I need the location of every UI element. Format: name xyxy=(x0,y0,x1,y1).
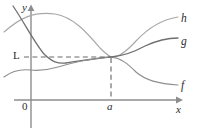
curve-f xyxy=(4,57,178,85)
y-axis-label: y xyxy=(22,2,27,13)
origin-label: 0 xyxy=(22,101,28,112)
y-axis-arrowhead xyxy=(28,5,35,12)
curve-h xyxy=(4,13,178,57)
curve-g-label: g xyxy=(181,36,187,48)
squeeze-theorem-figure: y x 0 L a h g f xyxy=(0,0,200,137)
curve-h-label: h xyxy=(181,13,187,25)
figure-canvas xyxy=(0,0,200,137)
curve-g xyxy=(13,6,178,63)
x-axis-label: x xyxy=(176,104,181,115)
curve-f-label: f xyxy=(181,80,184,92)
limit-value-label: L xyxy=(13,50,20,61)
point-a-label: a xyxy=(107,101,113,112)
